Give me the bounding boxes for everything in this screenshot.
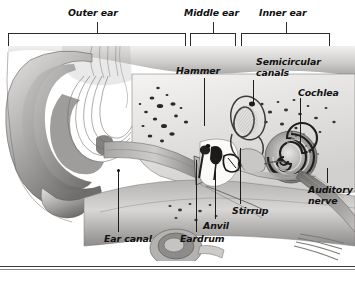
inner-ear-bracket-left <box>241 33 242 46</box>
callout-label-semicircular-canals-line1: Semicircular <box>256 57 321 68</box>
anvil-leader-line <box>215 152 216 219</box>
callout-label-cochlea: Cochlea <box>298 88 339 99</box>
callout-label-eardrum: Eardrum <box>180 234 224 245</box>
eardrum-leader-line <box>196 160 197 232</box>
auditory-nerve-leader-line <box>327 168 328 183</box>
outer-ear-bracket-left <box>8 33 9 46</box>
inner-ear-bracket-top <box>241 33 330 34</box>
region-label-middle-ear: Middle ear <box>184 8 239 19</box>
middle-ear-bracket-top <box>190 33 236 34</box>
ampulla <box>249 102 255 107</box>
callout-label-anvil: Anvil <box>203 221 229 232</box>
outer-ear-bracket-tick <box>97 22 98 33</box>
figure-baseline-lower <box>0 269 355 270</box>
inner-ear-bracket-right <box>329 33 330 46</box>
callout-label-stirrup: Stirrup <box>232 206 268 217</box>
outer-ear-bracket-right <box>185 33 186 46</box>
region-label-inner-ear: Inner ear <box>259 8 307 19</box>
ear-cross-section-illustration <box>0 46 355 261</box>
middle-ear-bracket-right <box>235 33 236 46</box>
figure-baseline-upper <box>0 266 355 267</box>
callout-label-auditory-nerve-line2: nerve <box>308 196 338 207</box>
callout-label-ear-canal: Ear canal <box>104 234 152 245</box>
cochlea-leader-line <box>300 98 301 143</box>
callout-label-semicircular-canals-line2: canals <box>256 68 289 79</box>
stirrup-leader-line <box>240 148 241 204</box>
ear-anatomy-figure: Outer ear Middle ear Inner ear Hammer Se… <box>0 0 355 282</box>
semicircular-canals-leader-line <box>253 80 254 103</box>
hammer-leader-line <box>204 78 205 126</box>
outer-ear-bracket-top <box>8 33 186 34</box>
inner-ear-bracket-tick <box>286 22 287 33</box>
middle-ear-bracket-tick <box>213 22 214 33</box>
ear-canal-leader-dot <box>117 169 120 172</box>
callout-label-auditory-nerve-line1: Auditory <box>308 185 353 196</box>
callout-label-hammer: Hammer <box>176 66 220 77</box>
middle-ear-bracket-left <box>190 33 191 46</box>
region-label-outer-ear: Outer ear <box>68 8 118 19</box>
ear-canal-leader-line <box>118 170 119 232</box>
